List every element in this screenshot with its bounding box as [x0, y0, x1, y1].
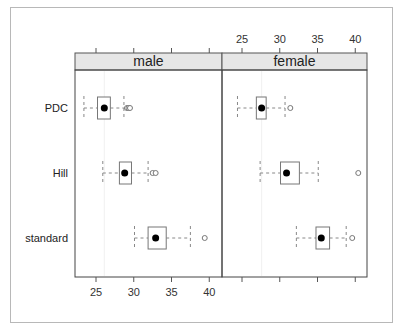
- box-pdc: [237, 96, 292, 120]
- median-dot: [318, 235, 325, 242]
- panel-female: female25303540: [222, 33, 367, 282]
- outlier-point: [202, 236, 207, 241]
- box-pdc: [84, 96, 133, 120]
- category-label: PDC: [45, 102, 68, 114]
- outlier-point: [350, 236, 355, 241]
- category-label: Hill: [53, 167, 68, 179]
- tick-label: 40: [349, 33, 361, 45]
- median-dot: [152, 235, 159, 242]
- strip-label: female: [273, 53, 315, 69]
- outlier-point: [356, 171, 361, 176]
- boxplot-chart: PDCHillstandardmale25303540female2530354…: [0, 0, 398, 331]
- tick-label: 35: [311, 33, 323, 45]
- tick-label: 25: [236, 33, 248, 45]
- median-dot: [101, 105, 108, 112]
- box-hill: [260, 161, 361, 185]
- median-dot: [258, 105, 265, 112]
- tick-label: 30: [128, 286, 140, 298]
- tick-label: 40: [203, 286, 215, 298]
- strip-label: male: [133, 53, 164, 69]
- tick-label: 35: [165, 286, 177, 298]
- outlier-point: [127, 106, 132, 111]
- tick-label: 25: [90, 286, 102, 298]
- box-standard: [135, 226, 208, 250]
- box-standard: [296, 226, 354, 250]
- median-dot: [283, 170, 290, 177]
- category-label: standard: [25, 232, 68, 244]
- box-hill: [103, 161, 158, 185]
- tick-label: 30: [274, 33, 286, 45]
- median-dot: [121, 170, 128, 177]
- outlier-point: [288, 106, 293, 111]
- outlier-point: [153, 171, 158, 176]
- panel-male: male25303540: [75, 48, 222, 298]
